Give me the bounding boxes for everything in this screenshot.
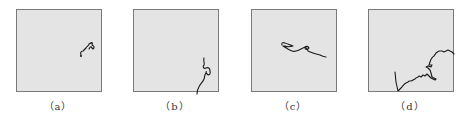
- panel-a: [16, 9, 102, 92]
- trajectory-d: [369, 10, 453, 91]
- trajectory-b: [134, 10, 218, 91]
- panel-label-b: （b）: [133, 98, 217, 113]
- panel-d: [368, 9, 454, 92]
- trajectory-c: [252, 10, 336, 91]
- panel-label-c: （c）: [251, 98, 335, 113]
- panel-c: [251, 9, 337, 92]
- panel-b: [133, 9, 219, 92]
- panel-label-a: （a）: [16, 98, 100, 113]
- trajectory-a: [17, 10, 101, 91]
- panel-label-d: （d）: [368, 98, 452, 113]
